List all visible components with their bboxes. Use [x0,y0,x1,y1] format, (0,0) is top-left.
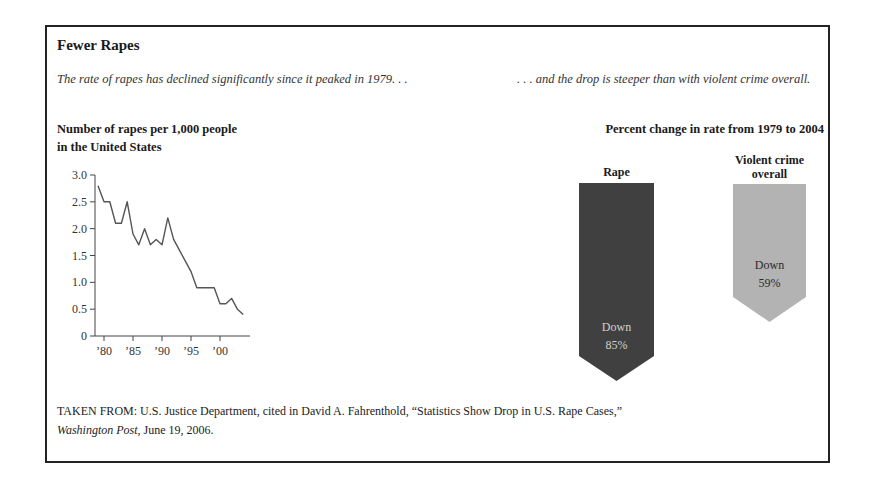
source-publication: Washington Post [57,423,138,437]
violent-crime-arrow-value: Down 59% [733,256,806,292]
violent-crime-arrow [733,184,806,322]
violent-crime-arrow-label: Violent crime overall [719,153,820,181]
source-suffix: , June 19, 2006. [138,423,214,437]
rape-arrow-label: Rape [579,165,654,179]
rape-arrow-value: Down 85% [579,318,654,354]
source-prefix: TAKEN FROM: U.S. Justice Department, cit… [57,404,622,418]
source-citation: TAKEN FROM: U.S. Justice Department, cit… [57,402,817,440]
